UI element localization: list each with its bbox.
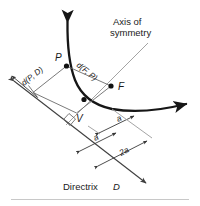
vertex-v-label: V xyxy=(76,113,84,124)
distance-p-directrix-label: d(P, D) xyxy=(20,65,45,88)
construction-guides xyxy=(33,86,111,113)
point-F-focus xyxy=(108,83,113,88)
measure-2a-label: 2a xyxy=(116,144,130,158)
point-p-label: P xyxy=(55,52,62,63)
point-P xyxy=(64,63,69,68)
point-V-vertex xyxy=(81,97,86,102)
point-f-label: F xyxy=(118,81,125,92)
axis-of-symmetry-label-line2: symmetry xyxy=(110,27,151,38)
measure-a-upper-label: a xyxy=(114,113,123,124)
directrix-symbol-label: D xyxy=(113,181,120,192)
axis-of-symmetry-label-line1: Axis of xyxy=(113,16,142,27)
diagram-canvas: Axis of symmetry d(P, D) P d(F, P) F V a… xyxy=(0,0,200,206)
directrix-word-label: Directrix xyxy=(63,181,98,192)
parabola-diagram: Axis of symmetry d(P, D) P d(F, P) F V a… xyxy=(0,0,200,206)
directrix-line xyxy=(14,81,146,183)
measure-tick-guides xyxy=(88,109,152,138)
